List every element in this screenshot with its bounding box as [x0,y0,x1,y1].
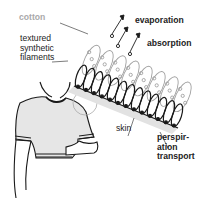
filament-coil [121,83,137,109]
filament-coil [73,64,89,90]
filament-coil [105,77,121,103]
moisture-droplet-icon [168,89,171,92]
filament-anchor [93,92,96,95]
tshirt-figure [14,82,98,198]
filament-anchor [173,124,176,127]
filament-anchor [109,98,112,101]
diagram-artwork [0,0,209,210]
moisture-droplet-icon [90,58,93,61]
filament-coil [137,90,153,116]
moisture-droplet-icon [103,63,106,66]
filament-coil [161,99,177,125]
diagram: cotton textured synthetic filaments evap… [0,0,209,210]
label-skin: skin [116,124,131,134]
filaments-leader [52,61,68,62]
filament-coil [129,86,145,112]
moisture-droplet-icon [129,73,132,76]
filament-anchor [165,121,168,124]
cotton-leader [60,23,88,34]
label-perspiration: perspir- ation transport [157,133,195,162]
cotton-fibers [79,43,195,114]
filament-anchor [125,105,128,108]
moisture-droplet-icon [155,84,158,87]
moisture-droplet-icon [142,79,145,82]
filament-anchor [117,101,120,104]
filament-anchor [157,118,160,121]
arrow-up-right-icon [128,33,140,56]
filament-coil [153,96,169,122]
label-absorption: absorption [147,39,191,49]
neck [40,82,70,98]
filament-anchor [141,111,144,114]
label-cotton: cotton [19,13,45,23]
filament-anchor [133,108,136,111]
filament-anchor [85,88,88,91]
filament-anchor [101,95,104,98]
filament-anchor [77,85,80,88]
arrow-up-right-icon [116,27,128,48]
label-evaporation: evaporation [135,16,184,26]
filament-anchor [149,114,152,117]
filament-coil [81,67,97,93]
moisture-droplet-icon [181,94,184,97]
filament-coil [89,70,105,96]
arrow-up-right-icon [110,15,124,38]
label-filaments: textured synthetic filaments [20,34,54,63]
filament-coil [97,74,113,100]
filament-coil [169,103,185,129]
arm-left [14,140,31,198]
moisture-droplet-icon [116,68,119,71]
